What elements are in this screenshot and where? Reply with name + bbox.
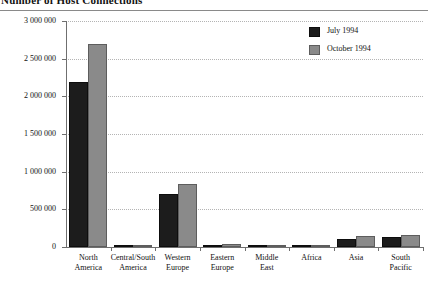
y-tick-mark bbox=[62, 96, 67, 97]
y-tick-mark bbox=[62, 134, 67, 135]
x-tick-mark bbox=[155, 247, 156, 251]
bar-october bbox=[311, 245, 330, 247]
bar-october bbox=[178, 184, 197, 247]
y-tick-label: 2 000 000 bbox=[24, 91, 56, 100]
legend-swatch-icon-october bbox=[309, 45, 320, 55]
chart-figure: Number of Host Connections 0500 0001 000… bbox=[0, 0, 428, 284]
x-tick-mark bbox=[111, 247, 112, 251]
bar-july bbox=[69, 82, 88, 247]
bar-october bbox=[222, 244, 241, 247]
bar-group bbox=[159, 21, 197, 247]
legend-label-october: October 1994 bbox=[327, 44, 371, 53]
bar-july bbox=[114, 245, 133, 247]
x-tick-mark bbox=[378, 247, 379, 251]
y-tick-mark bbox=[62, 59, 67, 60]
y-tick-label: 500 000 bbox=[30, 204, 56, 213]
bar-july bbox=[248, 245, 267, 247]
x-tick-mark bbox=[245, 247, 246, 251]
legend-label-july: July 1994 bbox=[327, 26, 358, 35]
legend-swatch-icon-july bbox=[309, 27, 320, 37]
bar-group bbox=[337, 21, 375, 247]
y-tick-label: 2 500 000 bbox=[24, 54, 56, 63]
bar-october bbox=[267, 245, 286, 247]
x-tick-mark bbox=[200, 247, 201, 251]
bar-july bbox=[337, 239, 356, 247]
bar-october bbox=[356, 236, 375, 247]
bar-july bbox=[159, 194, 178, 247]
category-label-line: East bbox=[229, 263, 305, 273]
y-tick-label: 3 000 000 bbox=[24, 16, 56, 25]
bar-october bbox=[401, 235, 420, 247]
bar-october bbox=[88, 44, 107, 247]
bar-group bbox=[248, 21, 286, 247]
x-axis-category-label: SouthPacific bbox=[363, 253, 428, 273]
y-tick-mark bbox=[62, 247, 67, 248]
x-tick-mark bbox=[334, 247, 335, 251]
bar-group bbox=[114, 21, 152, 247]
y-tick-mark bbox=[62, 21, 67, 22]
bar-july bbox=[382, 237, 401, 247]
bar-group bbox=[69, 21, 107, 247]
x-tick-mark bbox=[289, 247, 290, 251]
y-tick-mark bbox=[62, 172, 67, 173]
bar-group bbox=[203, 21, 241, 247]
bar-october bbox=[133, 245, 152, 247]
category-label-line: Pacific bbox=[363, 263, 428, 273]
bar-group bbox=[382, 21, 420, 247]
y-tick-label: 0 bbox=[52, 242, 56, 251]
plot-area: 0500 0001 000 0001 500 0002 000 0002 500… bbox=[0, 0, 428, 284]
bar-july bbox=[203, 245, 222, 247]
category-label-line: South bbox=[363, 253, 428, 263]
y-tick-label: 1 000 000 bbox=[24, 167, 56, 176]
y-tick-label: 1 500 000 bbox=[24, 129, 56, 138]
x-tick-mark bbox=[423, 247, 424, 251]
bar-july bbox=[292, 245, 311, 247]
y-tick-mark bbox=[62, 209, 67, 210]
